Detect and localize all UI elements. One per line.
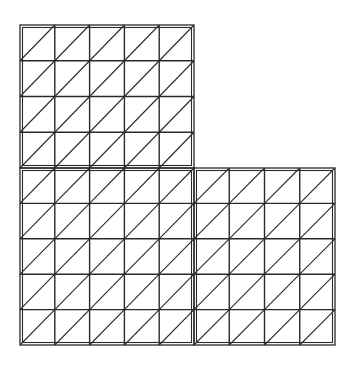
cell-diagonal bbox=[265, 239, 300, 274]
cell-diagonal bbox=[194, 239, 229, 274]
bottom-right-block bbox=[194, 168, 335, 345]
cell-diagonal bbox=[55, 25, 90, 61]
cell-diagonal bbox=[55, 310, 90, 345]
cell-diagonal bbox=[90, 310, 125, 345]
cell-diagonal bbox=[229, 310, 264, 345]
cell-diagonal bbox=[90, 97, 125, 133]
cell-diagonal bbox=[90, 239, 125, 274]
cell-diagonal bbox=[55, 61, 90, 97]
cell-diagonal bbox=[124, 203, 159, 238]
cell-diagonal bbox=[20, 25, 55, 61]
cell-diagonal bbox=[194, 310, 229, 345]
cell-diagonal bbox=[229, 239, 264, 274]
cell-diagonal bbox=[55, 97, 90, 133]
cell-diagonal bbox=[90, 61, 125, 97]
cell-diagonal bbox=[229, 168, 264, 203]
cell-diagonal bbox=[124, 239, 159, 274]
cell-diagonal bbox=[20, 168, 55, 203]
cell-diagonal bbox=[90, 132, 125, 168]
cell-diagonal bbox=[300, 310, 335, 345]
cell-diagonal bbox=[55, 274, 90, 309]
cell-diagonal bbox=[159, 132, 194, 168]
cell-diagonal bbox=[20, 239, 55, 274]
cell-diagonal bbox=[124, 61, 159, 97]
cell-diagonal bbox=[90, 203, 125, 238]
cell-diagonal bbox=[124, 168, 159, 203]
cell-diagonal bbox=[194, 203, 229, 238]
cell-diagonal bbox=[300, 239, 335, 274]
cell-diagonal bbox=[90, 274, 125, 309]
cell-diagonal bbox=[124, 274, 159, 309]
cell-diagonal bbox=[265, 274, 300, 309]
cell-diagonal bbox=[20, 310, 55, 345]
cell-diagonal bbox=[229, 203, 264, 238]
cell-diagonal bbox=[124, 132, 159, 168]
cell-diagonal bbox=[194, 274, 229, 309]
cell-diagonal bbox=[124, 97, 159, 133]
cell-diagonal bbox=[159, 61, 194, 97]
cell-diagonal bbox=[159, 203, 194, 238]
cell-diagonal bbox=[20, 132, 55, 168]
cell-diagonal bbox=[265, 203, 300, 238]
cell-diagonal bbox=[159, 97, 194, 133]
cell-diagonal bbox=[265, 310, 300, 345]
cell-diagonal bbox=[159, 310, 194, 345]
cell-diagonal bbox=[300, 203, 335, 238]
cell-diagonal bbox=[20, 61, 55, 97]
cell-diagonal bbox=[124, 25, 159, 61]
cell-diagonal bbox=[124, 310, 159, 345]
cell-diagonal bbox=[265, 168, 300, 203]
cell-diagonal bbox=[194, 168, 229, 203]
cell-diagonal bbox=[229, 274, 264, 309]
top-left-block bbox=[20, 25, 194, 168]
triangular-mesh-diagram bbox=[0, 0, 352, 367]
cell-diagonal bbox=[159, 168, 194, 203]
cell-diagonal bbox=[90, 168, 125, 203]
cell-diagonal bbox=[159, 239, 194, 274]
cell-diagonal bbox=[300, 274, 335, 309]
cell-diagonal bbox=[300, 168, 335, 203]
cell-diagonal bbox=[55, 203, 90, 238]
cell-diagonal bbox=[20, 97, 55, 133]
cell-diagonal bbox=[55, 168, 90, 203]
cell-diagonal bbox=[20, 274, 55, 309]
cell-diagonal bbox=[159, 25, 194, 61]
cell-diagonal bbox=[90, 25, 125, 61]
cell-diagonal bbox=[55, 132, 90, 168]
cell-diagonal bbox=[55, 239, 90, 274]
cell-diagonal bbox=[20, 203, 55, 238]
cell-diagonal bbox=[159, 274, 194, 309]
bottom-left-block bbox=[20, 168, 194, 345]
